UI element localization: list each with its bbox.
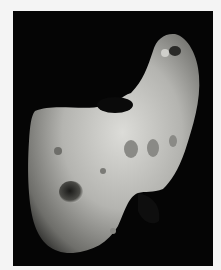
asteroid-illustration xyxy=(13,11,213,266)
shadow-saddle xyxy=(97,97,133,113)
crater xyxy=(169,46,181,56)
large-crater xyxy=(59,181,83,203)
crater xyxy=(161,49,169,57)
crater xyxy=(100,168,106,174)
crater xyxy=(124,140,138,158)
lower-shadow xyxy=(138,193,159,223)
crater xyxy=(110,228,116,234)
crater xyxy=(169,135,177,147)
crater xyxy=(54,147,62,155)
asteroid-photo xyxy=(13,11,213,266)
crater xyxy=(147,139,159,157)
